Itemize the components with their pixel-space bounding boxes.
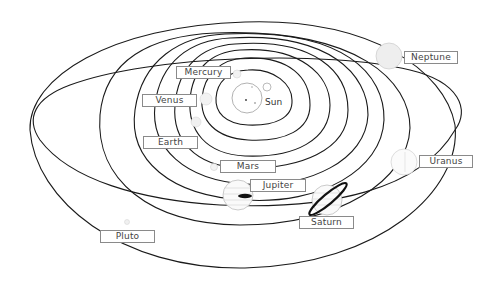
planet-mercury bbox=[233, 70, 241, 78]
planet-earth bbox=[191, 117, 201, 127]
planet-mars bbox=[211, 164, 218, 171]
label-jupiter: Jupiter bbox=[250, 179, 306, 192]
orbit-mars bbox=[175, 43, 348, 168]
planet-uranus bbox=[391, 149, 417, 175]
planet-neptune bbox=[376, 43, 402, 69]
label-sun: Sun bbox=[265, 97, 282, 107]
label-saturn: Saturn bbox=[299, 216, 354, 229]
planet-saturn bbox=[306, 180, 349, 219]
planet-pluto bbox=[125, 220, 130, 225]
label-mercury: Mercury bbox=[176, 66, 231, 79]
planet-venus bbox=[200, 93, 212, 105]
orbit-uranus bbox=[100, 33, 410, 225]
planet-jupiter bbox=[223, 180, 253, 210]
solar-system-diagram bbox=[0, 0, 501, 299]
label-earth: Earth bbox=[143, 136, 198, 149]
label-pluto: Pluto bbox=[100, 230, 155, 243]
label-venus: Venus bbox=[142, 94, 197, 107]
label-neptune: Neptune bbox=[404, 51, 458, 64]
label-uranus: Uranus bbox=[419, 155, 473, 168]
label-mars: Mars bbox=[220, 160, 276, 173]
